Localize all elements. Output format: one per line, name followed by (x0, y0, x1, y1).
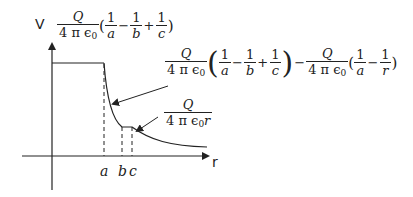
pointer-arrow-middle (113, 86, 168, 104)
tick-c: c (129, 163, 137, 179)
label-between-a-b-potential: Q4 π ϵ0(1a−1b+1c)−Q4 π ϵ0(1a−1r) (165, 47, 397, 78)
x-axis-label: r (212, 154, 218, 170)
y-axis-label: V (35, 16, 45, 32)
label-outer-potential: Q4 π ϵ0r (164, 98, 212, 129)
tick-a: a (100, 163, 108, 179)
pointer-arrow-outer (137, 117, 158, 131)
tick-b: b (118, 163, 127, 179)
label-inner-potential: Q4 π ϵ0(1a−1b+1c) (57, 10, 174, 41)
